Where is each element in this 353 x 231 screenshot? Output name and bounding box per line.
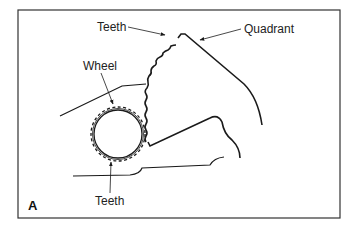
label-quadrant: Quadrant — [244, 22, 295, 36]
wheel-gear — [91, 107, 145, 161]
panel-label: A — [28, 198, 38, 213]
leader-teeth-bottom — [110, 162, 111, 193]
leader-wheel — [101, 73, 113, 104]
label-wheel: Wheel — [83, 59, 117, 73]
leader-quadrant — [200, 29, 241, 40]
quadrant-arm — [148, 117, 240, 158]
leader-teeth-top — [128, 27, 165, 35]
figure-frame — [18, 10, 340, 218]
steering-gear-diagram: Teeth Quadrant Wheel Teeth A — [0, 0, 353, 231]
label-teeth-bottom: Teeth — [95, 194, 124, 208]
housing-outline-lower — [73, 157, 224, 176]
quadrant-teeth-edge — [145, 45, 176, 142]
quadrant-body-edge — [178, 34, 262, 125]
label-teeth-top: Teeth — [97, 20, 126, 34]
